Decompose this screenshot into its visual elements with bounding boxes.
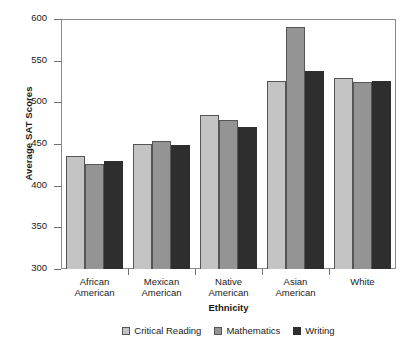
- y-tick-mark: [54, 227, 61, 228]
- bar-group: [128, 19, 195, 269]
- bar[interactable]: [305, 71, 324, 269]
- y-tick-mark: [54, 102, 61, 103]
- x-axis-label-line: Asian: [262, 276, 329, 287]
- legend-item-critical-reading[interactable]: Critical Reading: [122, 325, 201, 336]
- x-axis-label-line: African: [61, 276, 128, 287]
- y-tick-label: 400: [7, 179, 47, 190]
- legend-item-writing[interactable]: Writing: [293, 325, 334, 336]
- bar-group: [195, 19, 262, 269]
- legend-swatch-icon: [214, 327, 222, 335]
- y-tick-label: 600: [7, 12, 47, 23]
- y-tick-label: 550: [7, 54, 47, 65]
- bar[interactable]: [372, 81, 391, 269]
- legend-item-mathematics[interactable]: Mathematics: [214, 325, 280, 336]
- y-tick-label: 450: [7, 137, 47, 148]
- bar[interactable]: [200, 115, 219, 269]
- x-tick-mark: [195, 269, 196, 275]
- x-axis-label-african-american: AfricanAmerican: [61, 276, 128, 298]
- legend-label: Critical Reading: [134, 325, 201, 336]
- x-tick-mark: [128, 269, 129, 275]
- y-tick-mark: [54, 19, 61, 20]
- x-axis-label-line: White: [329, 276, 396, 287]
- x-axis-label-white: White: [329, 276, 396, 298]
- bar[interactable]: [152, 141, 171, 269]
- sat-scores-bar-chart: Average SAT Scores 300350400450500550600…: [0, 0, 412, 351]
- x-axis-label-native-american: NativeAmerican: [195, 276, 262, 298]
- y-tick-mark: [54, 61, 61, 62]
- bar[interactable]: [66, 156, 85, 269]
- bar[interactable]: [286, 27, 305, 270]
- bar[interactable]: [85, 164, 104, 269]
- bar[interactable]: [104, 161, 123, 269]
- x-axis-label-line: American: [61, 287, 128, 298]
- x-axis-label-line: American: [128, 287, 195, 298]
- x-axis-title: Ethnicity: [61, 302, 396, 313]
- bar[interactable]: [238, 127, 257, 269]
- x-axis-labels: AfricanAmericanMexicanAmericanNativeAmer…: [61, 276, 396, 298]
- x-tick-mark: [329, 269, 330, 275]
- chart-legend: Critical ReadingMathematicsWriting: [61, 325, 396, 336]
- y-tick-mark: [54, 144, 61, 145]
- x-axis-label-line: Mexican: [128, 276, 195, 287]
- y-tick-label: 300: [7, 262, 47, 273]
- bar[interactable]: [334, 78, 353, 269]
- x-axis-label-line: Native: [195, 276, 262, 287]
- legend-swatch-icon: [293, 327, 301, 335]
- x-axis-label-line: American: [195, 287, 262, 298]
- legend-label: Writing: [305, 325, 334, 336]
- y-tick-mark: [54, 269, 61, 270]
- bar[interactable]: [267, 81, 286, 269]
- bar-group: [329, 19, 396, 269]
- y-tick-label: 500: [7, 95, 47, 106]
- bar-group: [61, 19, 128, 269]
- bar[interactable]: [219, 120, 238, 269]
- bar[interactable]: [353, 82, 372, 269]
- legend-swatch-icon: [122, 327, 130, 335]
- y-tick-mark: [54, 186, 61, 187]
- bar[interactable]: [171, 145, 190, 269]
- y-tick-label: 350: [7, 220, 47, 231]
- x-axis-label-mexican-american: MexicanAmerican: [128, 276, 195, 298]
- y-axis-title: Average SAT Scores: [23, 44, 34, 224]
- x-axis-label-line: American: [262, 287, 329, 298]
- bar[interactable]: [133, 144, 152, 269]
- x-axis-label-asian-american: AsianAmerican: [262, 276, 329, 298]
- x-tick-mark: [262, 269, 263, 275]
- bar-group: [262, 19, 329, 269]
- legend-label: Mathematics: [226, 325, 280, 336]
- bars-layer: [61, 19, 396, 269]
